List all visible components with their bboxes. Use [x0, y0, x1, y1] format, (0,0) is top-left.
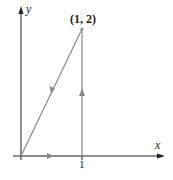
diagram: y x (1, 2) 1 [0, 0, 173, 180]
x-axis-arrow-icon [157, 154, 165, 159]
point-label: (1, 2) [70, 12, 96, 27]
x-axis-label: x [155, 138, 160, 153]
arrow-right-icon [47, 153, 54, 159]
point-marker [81, 28, 84, 31]
y-axis-arrow-icon [19, 6, 24, 14]
arrow-up-icon [79, 88, 85, 96]
diagram-canvas [0, 0, 173, 180]
x-tick-label: 1 [79, 158, 85, 170]
y-axis-label: y [26, 2, 31, 17]
